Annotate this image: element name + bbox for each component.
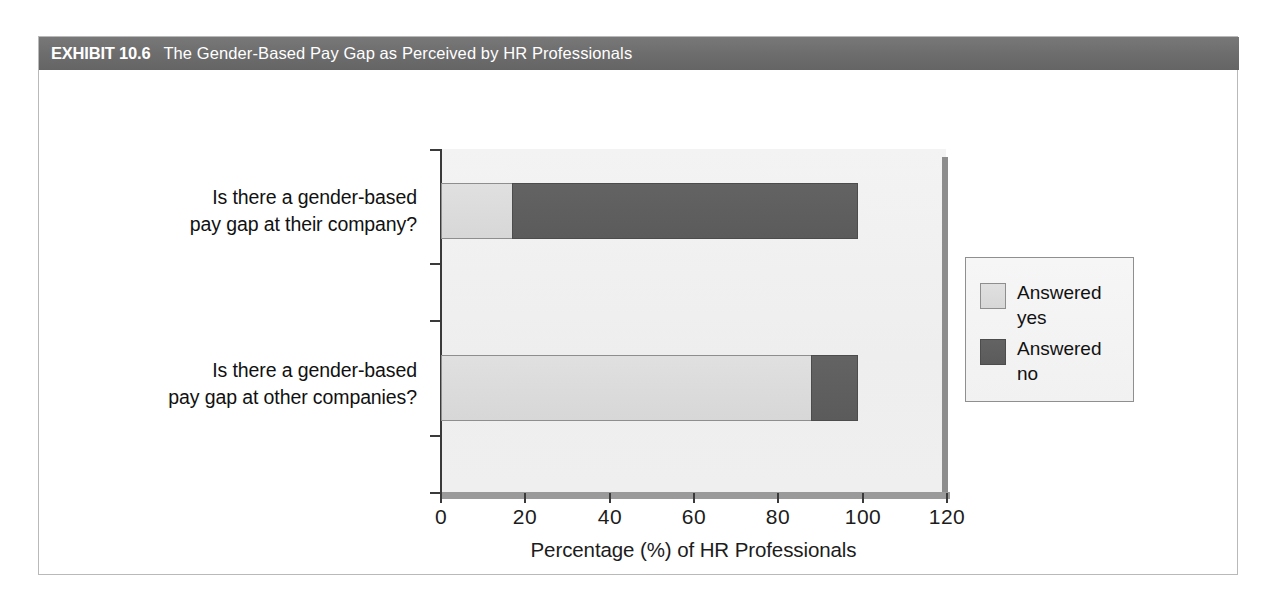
y-axis-tick-2 <box>430 320 441 322</box>
y-axis-tick-1 <box>430 263 441 265</box>
legend-item-answered-no[interactable]: Answered no <box>980 336 1102 386</box>
x-axis-tick-80 <box>777 493 779 503</box>
x-axis-label-120: 120 <box>929 505 966 529</box>
x-axis-title: Percentage (%) of HR Professionals <box>441 538 946 562</box>
x-axis-tick-60 <box>693 493 695 503</box>
exhibit-title-bar: EXHIBIT 10.6 The Gender-Based Pay Gap as… <box>39 37 1239 70</box>
chart-canvas: Is there a gender-basedpay gap at their … <box>39 70 1237 574</box>
plot-floor <box>441 492 950 499</box>
x-axis-label-20: 20 <box>513 505 537 529</box>
x-axis-tick-120 <box>946 493 948 503</box>
x-axis-tick-20 <box>524 493 526 503</box>
x-axis-tick-40 <box>609 493 611 503</box>
x-axis-label-100: 100 <box>845 505 882 529</box>
legend-swatch-no-icon <box>980 339 1006 365</box>
exhibit-number: EXHIBIT 10.6 <box>51 44 150 63</box>
y-axis-tick-top <box>430 149 441 151</box>
bar-segment-row2-yes[interactable] <box>441 355 812 421</box>
exhibit-container: EXHIBIT 10.6 The Gender-Based Pay Gap as… <box>38 36 1238 575</box>
x-axis-tick-0 <box>440 493 442 503</box>
x-axis-label-80: 80 <box>766 505 790 529</box>
x-axis-label-40: 40 <box>598 505 622 529</box>
x-axis-label-60: 60 <box>682 505 706 529</box>
x-axis-label-0: 0 <box>435 505 447 529</box>
legend-label-no: Answered no <box>1017 336 1102 386</box>
legend-item-answered-yes[interactable]: Answered yes <box>980 280 1102 330</box>
bar-segment-row1-yes[interactable] <box>441 183 513 239</box>
plot-right-wall <box>942 157 948 499</box>
y-axis-tick-3 <box>430 435 441 437</box>
x-axis-tick-100 <box>862 493 864 503</box>
legend-swatch-yes-icon <box>980 283 1006 309</box>
category-label-row1: Is there a gender-basedpay gap at their … <box>117 184 417 238</box>
chart-legend: Answered yes Answered no <box>965 257 1134 402</box>
bar-segment-row2-no[interactable] <box>811 355 858 421</box>
category-label-row2: Is there a gender-basedpay gap at other … <box>117 357 417 411</box>
legend-label-yes: Answered yes <box>1017 280 1102 330</box>
bar-segment-row1-no[interactable] <box>512 183 858 239</box>
exhibit-title: The Gender-Based Pay Gap as Perceived by… <box>163 44 632 63</box>
